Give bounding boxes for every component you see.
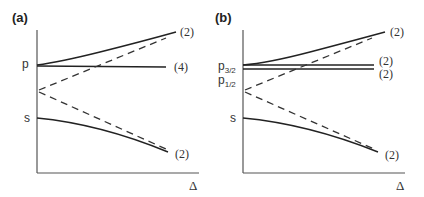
energy-level-diagram: (a) Δ p s (2) (4) (2) (b) Δ p3/2 p1/2 s … — [0, 0, 424, 197]
panel-a-curve-lower-shifted — [37, 118, 168, 152]
panel-a: (a) Δ p s (2) (4) (2) — [12, 10, 199, 193]
panel-a-level-p-label: p — [22, 57, 29, 71]
panel-b-curve-lower-shifted — [243, 118, 378, 152]
panel-b-curve-dressed-up — [245, 38, 372, 90]
panel-b: (b) Δ p3/2 p1/2 s (2) (2) (2) (2) — [215, 10, 405, 193]
panel-b-degeneracy-upper: (2) — [390, 25, 404, 39]
panel-a-label: (a) — [12, 10, 28, 25]
panel-a-level-s-label: s — [24, 111, 30, 125]
panel-b-level-s-label: s — [230, 111, 236, 125]
panel-b-degeneracy-p12: (2) — [379, 67, 393, 81]
panel-a-curve-dressed-up — [39, 38, 166, 90]
panel-b-label: (b) — [215, 10, 232, 25]
panel-a-degeneracy-lower: (2) — [175, 147, 189, 161]
panel-b-level-p12-label: p1/2 — [218, 73, 236, 89]
panel-a-curve-upper-shifted — [37, 32, 176, 65]
panel-b-curve-upper-shifted — [243, 32, 385, 65]
panel-a-degeneracy-p: (4) — [174, 60, 188, 74]
panel-b-x-label: Δ — [396, 178, 404, 193]
panel-a-x-label: Δ — [189, 178, 197, 193]
panel-a-curve-p-unshifted — [37, 66, 166, 67]
panel-b-degeneracy-p32: (2) — [379, 54, 393, 68]
panel-a-degeneracy-upper: (2) — [180, 25, 194, 39]
panel-b-degeneracy-lower: (2) — [385, 148, 399, 162]
